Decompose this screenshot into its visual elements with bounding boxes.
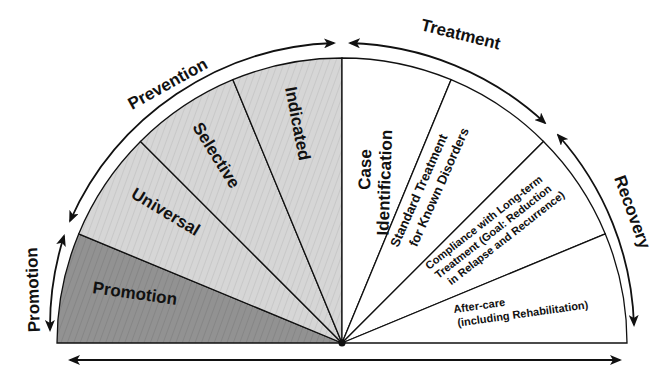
- arc-label-promotion: Promotion: [22, 247, 44, 333]
- arc-label-recovery: Recovery: [610, 173, 654, 252]
- svg-text:Identification: Identification: [373, 129, 396, 235]
- svg-text:Case: Case: [355, 149, 375, 190]
- arc-label-treatment: Treatment: [419, 15, 503, 53]
- center-hub: [339, 340, 346, 347]
- continuum-diagram: Promotion Prevention Treatment Recovery …: [0, 0, 670, 381]
